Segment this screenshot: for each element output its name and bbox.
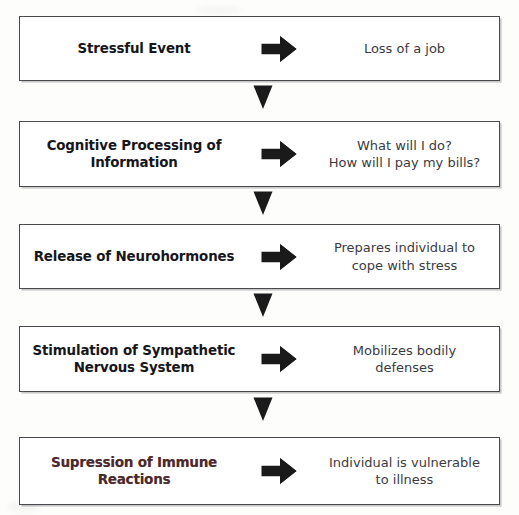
step-4-label-line-1: Stimulation of Sympathetic [33, 343, 236, 358]
flow-step-1[interactable]: Stressful Event Loss of a job [19, 16, 500, 81]
step-5-label: Supression of Immune Reactions [20, 454, 248, 488]
down-triangle-arrow-icon [249, 292, 277, 318]
step-5-label-line-2: Reactions [98, 472, 171, 487]
step-5-description: Individual is vulnerable to illness [310, 454, 499, 489]
flowchart-diagram: Stressful Event Loss of a job Cognitive … [0, 0, 519, 515]
step-5-arrow [248, 454, 310, 488]
step-5-description-line-1: Individual is vulnerable [316, 454, 493, 472]
step-2-label-line-1: Cognitive Processing of [47, 138, 222, 153]
step-4-description-line-2: defenses [316, 359, 493, 377]
connector-3-to-4 [249, 292, 277, 318]
step-4-arrow [248, 342, 310, 376]
step-2-description-line-2: How will I pay my bills? [316, 154, 493, 172]
step-4-label-line-2: Nervous System [74, 360, 195, 375]
down-triangle-arrow-icon [249, 396, 277, 422]
flow-step-2[interactable]: Cognitive Processing of Information What… [19, 121, 500, 187]
down-triangle-arrow-icon [249, 190, 277, 216]
connector-4-to-5 [249, 396, 277, 422]
connector-2-to-3 [249, 190, 277, 216]
right-block-arrow-icon [260, 454, 298, 488]
step-3-label-line-2: Neurohormones [116, 249, 235, 264]
step-3-description-line-1: Prepares individual to [316, 239, 493, 257]
step-4-description: Mobilizes bodily defenses [310, 342, 499, 377]
right-block-arrow-icon [260, 240, 298, 274]
step-1-description-line-1: Loss of a job [316, 40, 493, 58]
step-3-description-line-2: cope with stress [316, 257, 493, 275]
scan-artifact [196, 6, 242, 14]
step-1-arrow [248, 32, 310, 66]
step-2-description-line-1: What will I do? [316, 137, 493, 155]
step-3-label-line-1: Release of [34, 249, 111, 264]
step-2-arrow [248, 137, 310, 171]
step-4-label: Stimulation of Sympathetic Nervous Syste… [20, 342, 248, 376]
step-2-description: What will I do? How will I pay my bills? [310, 137, 499, 172]
step-1-description: Loss of a job [310, 40, 499, 58]
connector-1-to-2 [249, 84, 277, 110]
right-block-arrow-icon [260, 137, 298, 171]
flow-step-4[interactable]: Stimulation of Sympathetic Nervous Syste… [19, 326, 500, 392]
step-5-description-line-2: to illness [316, 471, 493, 489]
down-triangle-arrow-icon [249, 84, 277, 110]
step-3-label: Release of Neurohormones [20, 248, 248, 265]
step-5-label-line-1: Supression of Immune [51, 455, 217, 470]
flow-step-3[interactable]: Release of Neurohormones Prepares indivi… [19, 224, 500, 289]
step-4-description-line-1: Mobilizes bodily [316, 342, 493, 360]
step-1-label: Stressful Event [20, 40, 248, 57]
step-2-label-line-2: Information [90, 155, 177, 170]
right-block-arrow-icon [260, 32, 298, 66]
step-3-arrow [248, 240, 310, 274]
step-3-description: Prepares individual to cope with stress [310, 239, 499, 274]
right-block-arrow-icon [260, 342, 298, 376]
step-1-label-line-1: Stressful Event [78, 41, 191, 56]
flow-step-5[interactable]: Supression of Immune Reactions Individua… [19, 437, 500, 505]
step-2-label: Cognitive Processing of Information [20, 137, 248, 171]
